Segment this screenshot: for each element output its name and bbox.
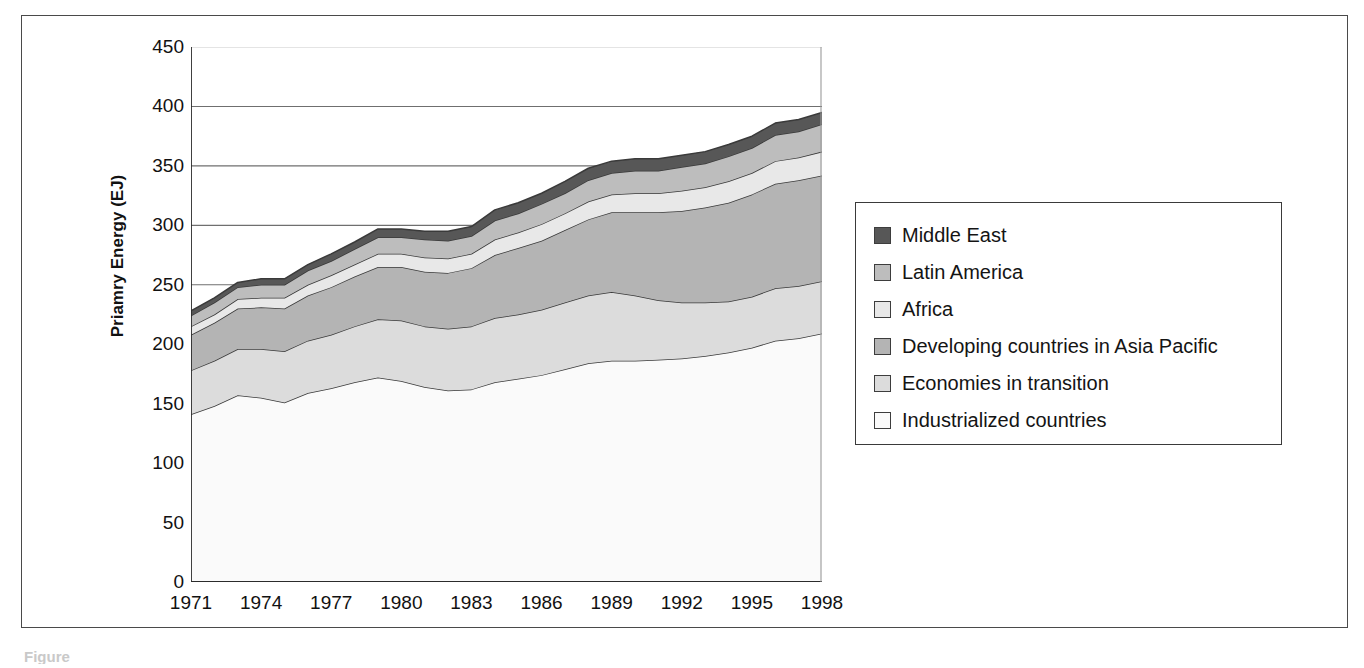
x-axis-tick-label: 1971	[170, 592, 212, 614]
x-axis-tick-label: 1980	[380, 592, 422, 614]
legend-item-label: Africa	[902, 299, 953, 319]
y-axis-tick-label: 50	[163, 513, 184, 532]
y-axis-tick-label: 350	[152, 156, 184, 175]
figure-caption-strip: Figure	[24, 650, 324, 664]
legend-swatch-icon	[874, 338, 891, 355]
y-axis-tick-label: 250	[152, 275, 184, 294]
legend-item[interactable]: Africa	[874, 291, 1281, 327]
legend-item-label: Latin America	[902, 262, 1023, 282]
x-axis-tick-labels: 1971197419771980198319861989199219951998	[191, 592, 822, 622]
plot-area	[191, 47, 822, 582]
y-axis-tick-label: 300	[152, 215, 184, 234]
legend-swatch-icon	[874, 227, 891, 244]
x-axis-tick-label: 1989	[591, 592, 633, 614]
figure-caption-text: Figure	[24, 650, 324, 664]
legend-item[interactable]: Developing countries in Asia Pacific	[874, 328, 1281, 364]
legend-swatch-icon	[874, 375, 891, 392]
legend-item[interactable]: Latin America	[874, 254, 1281, 290]
legend-swatch-icon	[874, 301, 891, 318]
y-axis-tick-label: 400	[152, 96, 184, 115]
x-axis-tick-label: 1986	[520, 592, 562, 614]
x-axis-tick-label: 1995	[731, 592, 773, 614]
y-axis-tick-label: 200	[152, 334, 184, 353]
legend-item[interactable]: Economies in transition	[874, 365, 1281, 401]
legend-item[interactable]: Middle East	[874, 217, 1281, 253]
legend-item-label: Developing countries in Asia Pacific	[902, 336, 1218, 356]
y-axis-tick-label: 100	[152, 453, 184, 472]
legend-swatch-icon	[874, 412, 891, 429]
legend-item[interactable]: Industrialized countries	[874, 402, 1281, 438]
y-axis-tick-labels: 050100150200250300350400450	[102, 47, 184, 582]
area-series-layers	[191, 112, 822, 582]
x-axis-tick-label: 1998	[801, 592, 843, 614]
legend-swatch-icon	[874, 264, 891, 281]
x-axis-tick-label: 1992	[661, 592, 703, 614]
y-axis-tick-label: 150	[152, 394, 184, 413]
stacked-area-chart: Priamry Energy (EJ) 05010015020025030035…	[22, 16, 1347, 627]
chart-legend: Middle EastLatin AmericaAfricaDeveloping…	[855, 202, 1282, 445]
x-axis-tick-label: 1983	[450, 592, 492, 614]
x-axis-tick-label: 1974	[240, 592, 282, 614]
figure-frame: Priamry Energy (EJ) 05010015020025030035…	[21, 15, 1348, 628]
legend-item-label: Middle East	[902, 225, 1007, 245]
x-axis-tick-label: 1977	[310, 592, 352, 614]
y-axis-tick-label: 450	[152, 37, 184, 56]
plot-svg	[191, 47, 822, 582]
figure-page: Priamry Energy (EJ) 05010015020025030035…	[0, 0, 1364, 668]
legend-item-label: Economies in transition	[902, 373, 1109, 393]
legend-item-label: Industrialized countries	[902, 410, 1107, 430]
y-axis-tick-label: 0	[173, 572, 184, 591]
